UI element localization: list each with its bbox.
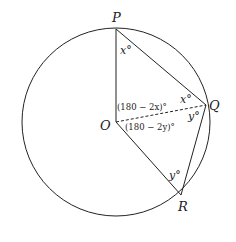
angle-label-o-upper: (180 − 2x)°: [117, 102, 167, 112]
angle-label-q-lower: y°: [187, 110, 200, 123]
point-label-r: R: [177, 199, 188, 214]
point-label-p: P: [111, 10, 121, 25]
angle-label-p: x°: [120, 44, 132, 57]
segment-or: [116, 122, 181, 195]
angle-label-o-lower: (180 − 2y)°: [125, 122, 175, 132]
circle-geometry-diagram: P O Q R x° x° y° y° (180 − 2x)° (180 − 2…: [0, 0, 236, 242]
point-label-q: Q: [209, 98, 220, 113]
angle-label-r: y°: [168, 169, 181, 182]
point-label-o: O: [100, 118, 111, 133]
angle-label-q-upper: x°: [180, 93, 192, 106]
